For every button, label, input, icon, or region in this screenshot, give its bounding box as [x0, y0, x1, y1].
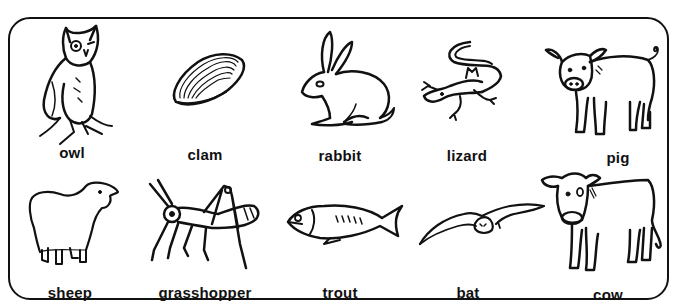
grasshopper-icon — [148, 176, 268, 271]
clam-icon — [168, 48, 248, 108]
animal-label-cow: cow — [593, 286, 623, 303]
bat-icon — [418, 200, 548, 250]
animal-label-rabbit: rabbit — [319, 147, 362, 164]
animal-label-owl: owl — [59, 144, 85, 161]
cow-icon — [534, 168, 669, 283]
trout-icon — [284, 200, 409, 245]
owl-icon — [30, 22, 120, 147]
pig-icon — [544, 42, 669, 142]
animal-label-bat: bat — [456, 284, 479, 301]
animal-label-lizard: lizard — [447, 147, 487, 164]
animal-label-grasshopper: grasshopper — [158, 284, 251, 301]
sheep-icon — [26, 178, 121, 268]
rabbit-icon — [290, 28, 400, 128]
animal-label-trout: trout — [322, 284, 357, 301]
animal-label-clam: clam — [188, 146, 223, 163]
animal-label-sheep: sheep — [48, 284, 92, 301]
lizard-icon — [420, 38, 530, 133]
animal-label-pig: pig — [606, 149, 629, 166]
